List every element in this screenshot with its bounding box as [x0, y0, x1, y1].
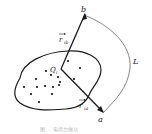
figure-caption: 图 … 电场力做功: [40, 126, 78, 133]
label-a: a: [98, 115, 103, 124]
charge-field-diagram: b a L Q i r ib r ia 图 … 电场力做功: [0, 0, 152, 134]
label-r-ia-subscript: ia: [84, 106, 88, 111]
path-L: [84, 15, 130, 112]
label-b: b: [81, 5, 86, 14]
label-r-ib: r: [59, 36, 63, 44]
vector-arrowhead-r-ib-icon: [64, 33, 66, 35]
label-r-ib-subscript: ib: [64, 40, 68, 45]
label-L: L: [132, 57, 138, 66]
label-Q-subscript: i: [56, 70, 58, 75]
charge-region-outline: [15, 51, 101, 110]
